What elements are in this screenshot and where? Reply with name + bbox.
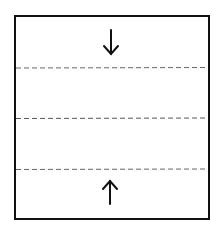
dashed-divider-1 bbox=[16, 68, 208, 69]
compression-diagram bbox=[0, 0, 224, 234]
dashed-divider-2 bbox=[16, 118, 208, 119]
dashed-divider-3 bbox=[16, 169, 208, 170]
arrow-down-icon bbox=[104, 30, 118, 54]
arrow-up-icon bbox=[103, 181, 117, 204]
